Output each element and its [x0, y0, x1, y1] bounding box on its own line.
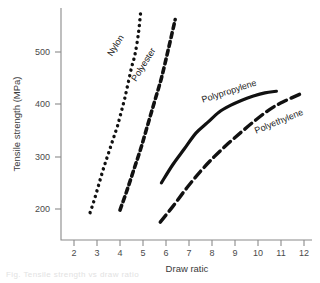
x-tick-label: 7 — [186, 248, 191, 258]
curve-label-nylon: Nylon — [105, 33, 126, 58]
chart-figure: 500 400 300 200 2 3 4 5 6 7 8 9 10 — [0, 0, 320, 283]
x-tick-label: 10 — [253, 248, 263, 258]
x-tick-label: 8 — [209, 248, 214, 258]
y-tick-label: 500 — [35, 47, 50, 57]
x-tick-label: 12 — [299, 248, 309, 258]
curve-label-polypropylene: Polypropylene — [200, 78, 257, 105]
x-tick-label: 11 — [276, 248, 285, 258]
tensile-strength-plot: 500 400 300 200 2 3 4 5 6 7 8 9 10 — [0, 0, 320, 283]
series-polypropylene — [161, 91, 276, 183]
x-tick-label: 5 — [140, 248, 145, 258]
y-axis-title: Tensile strength (MPa) — [11, 76, 22, 171]
x-tick-label: 9 — [232, 248, 237, 258]
x-tick-label: 3 — [94, 248, 99, 258]
y-axis-ticks: 500 400 300 200 — [35, 47, 61, 214]
series-polyethylene — [160, 94, 300, 222]
x-tick-label: 4 — [117, 248, 122, 258]
x-tick-label: 2 — [71, 248, 76, 258]
x-axis-ticks: 2 3 4 5 6 7 8 9 10 11 12 — [71, 240, 309, 258]
curve-label-polyethylene: Polyethylene — [253, 107, 305, 136]
x-tick-label: 6 — [163, 248, 168, 258]
y-tick-label: 300 — [35, 152, 50, 162]
figure-caption-remnant: Fig. Tensile strength vs draw ratio — [6, 270, 139, 279]
y-tick-label: 200 — [35, 204, 50, 214]
x-axis-title: Draw ratic — [166, 263, 209, 274]
y-tick-label: 400 — [35, 99, 50, 109]
